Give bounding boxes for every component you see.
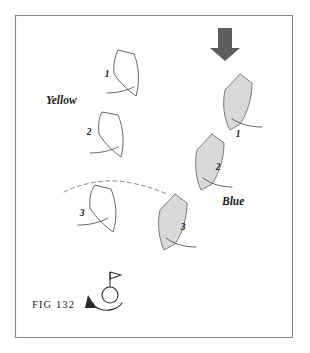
yellow-boat-3-number: 3	[79, 208, 85, 218]
figure-container: 1 2 3 1 2 3 Yellow	[0, 0, 310, 353]
figure-caption: FIG 132	[32, 299, 75, 310]
diagram-frame	[16, 16, 293, 338]
team-label-yellow: Yellow	[46, 94, 77, 106]
blue-boat-1-number: 1	[236, 129, 241, 139]
sailing-tactics-diagram: 1 2 3 1 2 3 Yellow	[0, 0, 310, 353]
yellow-boat-2-number: 2	[86, 127, 92, 137]
blue-boat-2-number: 2	[215, 162, 221, 172]
blue-boat-3-number: 3	[180, 222, 186, 232]
team-label-blue: Blue	[221, 195, 244, 207]
yellow-boat-1-number: 1	[105, 69, 110, 79]
